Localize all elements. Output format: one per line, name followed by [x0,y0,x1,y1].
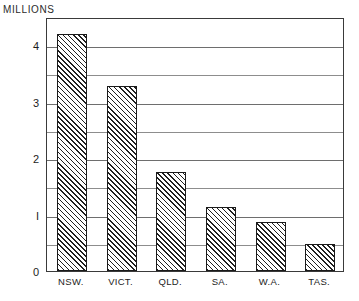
bar [156,172,186,271]
bar [206,207,236,271]
x-tick-label: VICT. [108,276,133,287]
y-axis-title: MILLIONS [3,4,54,15]
x-tick-label: TAS. [308,276,330,287]
bar-chart-screenshot: MILLIONS 0I234 NSW.VICT.QLD.SA.W.A.TAS. [0,0,359,301]
bar [107,86,137,271]
y-tick-label: 4 [0,40,46,52]
x-axis-tick-labels: NSW.VICT.QLD.SA.W.A.TAS. [46,276,344,298]
x-tick-label: W.A. [259,276,280,287]
y-tick-label: I [0,210,46,222]
x-tick-label: QLD. [158,276,181,287]
bars-group [47,19,343,271]
x-tick-label: NSW. [58,276,83,287]
x-tick-label: SA. [212,276,228,287]
bar [256,222,286,271]
y-tick-label: 0 [0,266,46,278]
bar [305,244,335,271]
bar [57,34,87,271]
y-axis-tick-labels: 0I234 [0,18,46,272]
y-tick-label: 2 [0,153,46,165]
y-tick-label: 3 [0,97,46,109]
plot-area [46,18,344,272]
